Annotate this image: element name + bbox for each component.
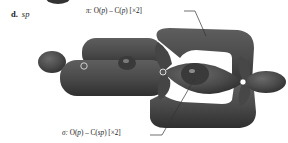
pi-end-text: ) [×2] (125, 7, 142, 15)
sigma-symbol: σ: (62, 129, 68, 137)
sigma-tube-left (60, 60, 168, 96)
previous-panel-lobe (46, 0, 70, 4)
pi-mid-text: ) – C( (105, 7, 122, 15)
orbital-diagram (0, 0, 288, 143)
sigma-end-text: ) [×2] (104, 129, 121, 137)
highlight (123, 59, 129, 63)
pi-bond-callout: π: O(p) – C(p) [×2] (86, 7, 142, 15)
inner-lobe-left (118, 56, 136, 70)
pi-symbol: π: (86, 7, 92, 15)
atom-carbon-center (160, 69, 166, 75)
atom-oxygen-right (240, 79, 246, 85)
highlight (189, 69, 195, 73)
panel-letter: d. (11, 9, 18, 19)
inner-lobe-center (181, 63, 209, 85)
sigma-bond-callout: σ: O(p) – C(sp) [×2] (62, 129, 121, 137)
panel-label: d.sp (11, 9, 29, 19)
sigma-mid-text: ) – C( (81, 129, 98, 137)
panel-hybridization: sp (22, 9, 30, 19)
oxygen-right-outer-lobe (246, 71, 286, 93)
